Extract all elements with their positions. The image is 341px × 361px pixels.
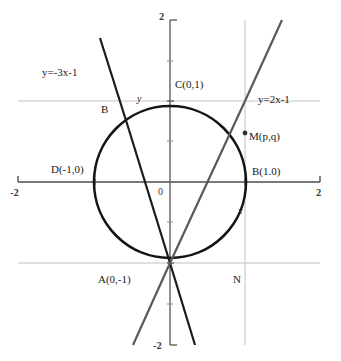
line-y-neg3x-minus-1-top	[100, 38, 129, 130]
math-diagram-figure: y=-3x-1 y=2x-1 C(0,1) A(0,-1) D(-1,0) B(…	[0, 0, 341, 361]
label-tick-x-max: 2	[316, 187, 321, 198]
label-tick-x-min: -2	[10, 187, 19, 198]
label-tick-y-max: 2	[159, 11, 164, 22]
label-equation-left: y=-3x-1	[42, 66, 78, 78]
diagram-canvas: y=-3x-1 y=2x-1 C(0,1) A(0,-1) D(-1,0) B(…	[0, 0, 341, 361]
label-axis-x: x	[237, 205, 243, 216]
label-tick-y-min: -2	[153, 340, 162, 351]
label-point-b-axis: B(1.0)	[252, 165, 281, 178]
label-equation-right: y=2x-1	[258, 93, 290, 105]
line-y-2x-minus-1-upper	[245, 20, 282, 101]
line-y-neg3x-minus-1-upper	[129, 130, 170, 263]
point-marker-m	[243, 131, 248, 136]
line-y-2x-minus-1-lower	[133, 263, 170, 345]
label-point-b: B	[101, 103, 108, 115]
label-point-d: D(-1,0)	[51, 163, 84, 176]
label-point-a: A(0,-1)	[98, 273, 131, 286]
line-y-neg3x-minus-1-lower	[170, 263, 195, 345]
label-point-c: C(0,1)	[175, 78, 204, 91]
label-tick-origin: 0	[158, 186, 163, 197]
label-point-m: M(p,q)	[249, 130, 280, 143]
label-axis-y: y	[136, 93, 142, 104]
label-point-n: N	[233, 273, 241, 285]
